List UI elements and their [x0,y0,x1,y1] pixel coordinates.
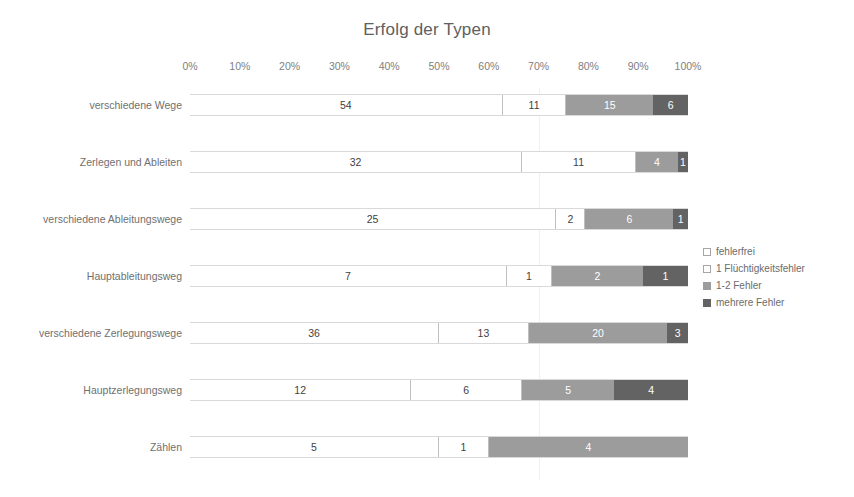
bar-segment[interactable]: 4 [614,380,688,400]
category-label: verschiedene Ableitungswege [0,208,182,230]
x-axis-tick: 80% [578,60,599,72]
bar-segment-value: 1 [460,441,466,453]
legend-swatch-icon [703,265,711,273]
bar-segment[interactable]: 5 [190,437,439,457]
bar-segment-value: 5 [311,441,317,453]
bar-segment-value: 1 [680,156,686,168]
bar-segment-value: 13 [478,327,490,339]
bar-track: 25261 [190,208,688,230]
bar-segment[interactable]: 15 [566,95,653,115]
category-label: verschiedene Zerlegungswege [0,322,182,344]
bar-row[interactable]: 25261 [190,208,688,230]
bar-segment-value: 6 [463,384,469,396]
bar-segment-value: 25 [367,213,379,225]
bar-segment[interactable]: 2 [552,266,643,286]
bar-segment[interactable]: 36 [190,323,439,343]
bar-segment-value: 12 [294,384,306,396]
bar-segment[interactable]: 11 [522,152,636,172]
bar-segment-value: 6 [668,99,674,111]
bar-segment[interactable]: 4 [489,437,688,457]
bar-segment[interactable]: 2 [556,209,585,229]
bar-row[interactable]: 3613203 [190,322,688,344]
bar-track: 5411156 [190,94,688,116]
bar-track: 321141 [190,151,688,173]
legend-label: fehlerfrei [716,246,755,257]
bar-row[interactable]: 5411156 [190,94,688,116]
bar-segment-value: 1 [678,213,684,225]
x-axis-tick: 90% [628,60,649,72]
bar-segment[interactable]: 6 [411,380,522,400]
legend-item[interactable]: fehlerfrei [703,243,848,260]
bar-segment[interactable]: 1 [643,266,688,286]
legend-swatch-icon [703,248,711,256]
legend-item[interactable]: 1 Flüchtigkeitsfehler [703,260,848,277]
legend-label: mehrere Fehler [716,297,784,308]
category-label: verschiedene Wege [0,94,182,116]
category-label: Zählen [0,436,182,458]
bar-row[interactable]: 514 [190,436,688,458]
x-axis-tick: 40% [379,60,400,72]
chart-legend: fehlerfrei1 Flüchtigkeitsfehler1-2 Fehle… [703,243,848,311]
bar-segment-value: 32 [350,156,362,168]
bar-segment-value: 1 [662,270,668,282]
bar-segment-value: 11 [573,156,584,168]
bar-segment[interactable]: 1 [673,209,688,229]
bar-segment-value: 2 [567,213,573,225]
bar-segment-value: 11 [529,99,540,111]
bar-track: 3613203 [190,322,688,344]
x-axis-tick: 0% [182,60,197,72]
legend-swatch-icon [703,282,711,290]
bar-segment[interactable]: 4 [636,152,678,172]
x-axis-tick: 70% [528,60,549,72]
bar-segment[interactable]: 11 [503,95,567,115]
bar-segment-value: 54 [340,99,352,111]
legend-swatch-icon [703,299,711,307]
bar-segment[interactable]: 12 [190,380,411,400]
legend-item[interactable]: 1-2 Fehler [703,277,848,294]
bar-segment[interactable]: 54 [190,95,503,115]
bar-segment-value: 7 [345,270,351,282]
bar-segment[interactable]: 3 [667,323,688,343]
legend-label: 1 Flüchtigkeitsfehler [716,263,805,274]
bar-segment[interactable]: 1 [507,266,552,286]
bar-row[interactable]: 7121 [190,265,688,287]
x-axis-tick: 60% [478,60,499,72]
bar-row[interactable]: 12654 [190,379,688,401]
bar-segment-value: 20 [592,327,604,339]
bar-segment[interactable]: 13 [439,323,529,343]
x-axis-tick: 50% [428,60,449,72]
legend-item[interactable]: mehrere Fehler [703,294,848,311]
x-axis-tick: 30% [329,60,350,72]
bar-segment-value: 4 [654,156,660,168]
bar-segment[interactable]: 7 [190,266,507,286]
bar-segment[interactable]: 32 [190,152,522,172]
bar-segment-value: 5 [565,384,571,396]
bar-segment-value: 36 [308,327,320,339]
bar-segment[interactable]: 1 [439,437,489,457]
bar-segment[interactable]: 6 [585,209,673,229]
bar-segment[interactable]: 6 [653,95,688,115]
x-axis: 0%10%20%30%40%50%60%70%80%90%100% [190,60,688,78]
bar-segment[interactable]: 5 [522,380,614,400]
legend-label: 1-2 Fehler [716,280,762,291]
category-label: Hauptableitungsweg [0,265,182,287]
bar-segment[interactable]: 20 [529,323,667,343]
bar-segment-value: 1 [526,270,532,282]
x-axis-tick: 20% [279,60,300,72]
bar-row[interactable]: 321141 [190,151,688,173]
chart-title: Erfolg der Typen [0,20,854,40]
bar-segment-value: 4 [585,441,591,453]
bar-track: 7121 [190,265,688,287]
plot-area: 5411156321141252617121361320312654514 [190,88,688,480]
bar-segment-value: 3 [675,327,681,339]
bar-segment-value: 6 [626,213,632,225]
category-label: Hauptzerlegungsweg [0,379,182,401]
category-label: Zerlegen und Ableiten [0,151,182,173]
bar-segment-value: 4 [648,384,654,396]
bar-segment[interactable]: 25 [190,209,556,229]
bar-track: 12654 [190,379,688,401]
x-axis-tick: 10% [229,60,250,72]
category-axis-labels: verschiedene WegeZerlegen und Ableitenve… [0,88,182,480]
bar-segment[interactable]: 1 [678,152,688,172]
bar-track: 514 [190,436,688,458]
